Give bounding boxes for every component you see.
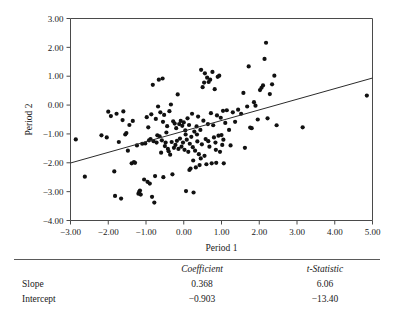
- data-point: [127, 123, 131, 127]
- data-point: [109, 114, 113, 118]
- data-point: [126, 149, 130, 153]
- data-point: [245, 104, 249, 108]
- data-point: [261, 83, 265, 87]
- y-tick-label: −3.00: [43, 187, 64, 197]
- header-coefficient: Coefficient: [142, 262, 262, 277]
- data-point: [198, 128, 202, 132]
- data-point: [253, 104, 257, 108]
- data-point: [148, 181, 152, 185]
- data-point: [184, 132, 188, 136]
- regression-line: [71, 78, 373, 163]
- data-point: [365, 93, 369, 97]
- data-point: [225, 108, 229, 112]
- y-tick-label: 1.00: [48, 71, 64, 81]
- data-point: [199, 156, 203, 160]
- data-point: [191, 190, 195, 194]
- data-point: [99, 133, 103, 137]
- data-point: [164, 130, 168, 134]
- header-blank: [14, 262, 142, 277]
- x-tick-label: 5.00: [365, 227, 381, 237]
- chart-area: 3.002.001.000.00−1.00−2.00−3.00−4.00−3.0…: [0, 0, 394, 256]
- data-point: [178, 136, 182, 140]
- data-point: [151, 83, 155, 87]
- data-point: [152, 201, 156, 205]
- data-point: [202, 80, 206, 84]
- data-point: [157, 78, 161, 82]
- data-point: [194, 165, 198, 169]
- data-point: [187, 123, 191, 127]
- data-point: [219, 116, 223, 120]
- data-point: [214, 148, 218, 152]
- data-point: [217, 74, 221, 78]
- data-points-group: [74, 41, 369, 205]
- y-tick-label: 2.00: [48, 43, 64, 53]
- data-point: [213, 87, 217, 91]
- data-point: [189, 135, 193, 139]
- data-point: [149, 112, 153, 116]
- data-point: [211, 123, 215, 127]
- table-row: Slope 0.368 6.06: [14, 277, 388, 292]
- data-point: [210, 70, 214, 74]
- data-point: [133, 161, 137, 165]
- data-point: [145, 115, 149, 119]
- data-point: [119, 196, 123, 200]
- x-tick-label: 0.00: [176, 227, 192, 237]
- data-point: [187, 168, 191, 172]
- data-point: [159, 151, 163, 155]
- data-point: [223, 121, 227, 125]
- data-point: [202, 154, 206, 158]
- x-tick-label: 2.00: [251, 227, 267, 237]
- x-tick-label: 4.00: [327, 227, 343, 237]
- data-point: [256, 117, 260, 121]
- data-point: [203, 71, 207, 75]
- data-point: [170, 172, 174, 176]
- data-point: [156, 104, 160, 108]
- data-point: [182, 120, 186, 124]
- y-tick-label: −4.00: [43, 216, 64, 226]
- data-point: [120, 118, 124, 122]
- data-point: [167, 109, 171, 113]
- header-t-statistic: t-Statistic: [262, 262, 388, 277]
- data-point: [215, 113, 219, 117]
- data-point: [170, 140, 174, 144]
- data-point: [220, 143, 224, 147]
- data-point: [181, 140, 185, 144]
- data-point: [212, 135, 216, 139]
- data-point: [114, 112, 118, 116]
- data-point: [173, 121, 177, 125]
- data-point: [236, 108, 240, 112]
- data-point: [197, 152, 201, 156]
- data-point: [83, 175, 87, 179]
- data-point: [146, 125, 150, 129]
- data-point: [268, 92, 272, 96]
- data-point: [195, 132, 199, 136]
- intercept-t-statistic-value: −13.40: [262, 292, 388, 307]
- data-point: [165, 124, 169, 128]
- data-point: [161, 76, 165, 80]
- data-point: [160, 138, 164, 142]
- row-label-intercept: Intercept: [14, 292, 142, 307]
- data-point: [247, 64, 251, 68]
- data-point: [153, 174, 157, 178]
- data-point: [174, 126, 178, 130]
- data-point: [221, 109, 225, 113]
- data-point: [204, 162, 208, 166]
- x-tick-label: 1.00: [214, 227, 230, 237]
- data-point: [228, 143, 232, 147]
- data-point: [250, 126, 254, 130]
- data-point: [206, 139, 210, 143]
- data-point: [207, 145, 211, 149]
- data-point: [219, 133, 223, 137]
- data-point: [210, 161, 214, 165]
- y-tick-label: 3.00: [48, 14, 64, 24]
- y-axis-title: Period 2: [24, 103, 34, 135]
- data-point: [270, 82, 274, 86]
- data-point: [162, 113, 166, 117]
- data-point: [213, 140, 217, 144]
- data-point: [301, 125, 305, 129]
- data-point: [164, 140, 168, 144]
- data-point: [275, 123, 279, 127]
- x-tick-label: −1.00: [136, 227, 157, 237]
- y-tick-label: −1.00: [43, 129, 64, 139]
- x-tick-label: −2.00: [98, 227, 119, 237]
